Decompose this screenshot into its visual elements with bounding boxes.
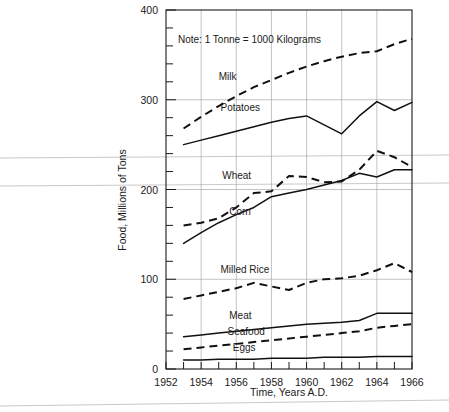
scan-line-mid bbox=[0, 183, 449, 186]
series-label-seafood: Seafood bbox=[228, 326, 265, 337]
series-line-seafood bbox=[184, 324, 412, 349]
scan-artifact-lines bbox=[0, 155, 449, 406]
scan-line-upper bbox=[0, 155, 449, 158]
series-line-milk bbox=[184, 39, 412, 129]
series-label-eggs: Eggs bbox=[233, 342, 256, 353]
y-axis-tick-labels: 0100200300400 bbox=[140, 4, 158, 375]
x-tick-label: 1966 bbox=[400, 376, 424, 388]
series-label-meat: Meat bbox=[229, 310, 251, 321]
x-tick-label: 1956 bbox=[225, 376, 249, 388]
y-tick-label: 0 bbox=[152, 363, 158, 375]
series-line-meat bbox=[184, 313, 412, 336]
series-line-wheat bbox=[184, 151, 412, 225]
series-label-milled-rice: Milled Rice bbox=[220, 264, 269, 275]
x-tick-label: 1962 bbox=[330, 376, 354, 388]
series-line-potatoes bbox=[184, 102, 412, 145]
series-label-milk: Milk bbox=[219, 71, 238, 82]
series-label-corn: Corn bbox=[229, 206, 251, 217]
chart-canvas: 19521954195619581960196219641966 0100200… bbox=[0, 0, 449, 412]
x-axis-title: Time, Years A.D. bbox=[250, 386, 328, 398]
y-tick-label: 400 bbox=[140, 4, 158, 16]
x-tick-label: 1954 bbox=[189, 376, 213, 388]
series-line-eggs bbox=[184, 356, 412, 360]
series-line-milled-rice bbox=[184, 263, 412, 299]
series-line-corn bbox=[184, 170, 412, 244]
series-label-potatoes: Potatoes bbox=[220, 102, 259, 113]
series-inline-labels: MilkPotatoesWheatCornMilled RiceMeatSeaf… bbox=[219, 71, 270, 353]
note-annotation: Note: 1 Tonne = 1000 Kilograms bbox=[178, 34, 321, 45]
series-label-wheat: Wheat bbox=[222, 170, 251, 181]
x-tick-label: 1964 bbox=[365, 376, 389, 388]
y-axis-title: Food, Millions of Tons bbox=[116, 149, 128, 250]
x-tick-label: 1952 bbox=[154, 376, 178, 388]
food-production-chart: 19521954195619581960196219641966 0100200… bbox=[0, 0, 449, 412]
y-tick-label: 100 bbox=[140, 273, 158, 285]
gridlines bbox=[166, 10, 412, 369]
series-paths bbox=[184, 39, 412, 360]
y-tick-label: 200 bbox=[140, 184, 158, 196]
scan-line-lower bbox=[0, 400, 449, 406]
y-tick-label: 300 bbox=[140, 94, 158, 106]
